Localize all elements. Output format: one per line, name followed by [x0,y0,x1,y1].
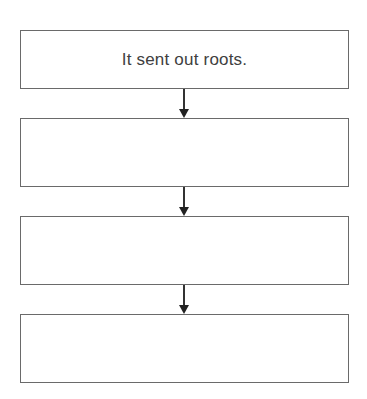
arrow-2-head-icon [179,207,189,216]
flow-box-1: It sent out roots. [20,30,349,89]
flow-box-3[interactable] [20,216,349,285]
arrow-3-line [183,285,185,306]
flow-box-1-text: It sent out roots. [122,50,248,70]
flow-box-2[interactable] [20,118,349,187]
arrow-1-head-icon [179,109,189,118]
arrow-1-line [183,89,185,111]
arrow-2-line [183,187,185,208]
cut-off-heading [60,0,310,4]
flow-box-4[interactable] [20,314,349,383]
arrow-3-head-icon [179,305,189,314]
